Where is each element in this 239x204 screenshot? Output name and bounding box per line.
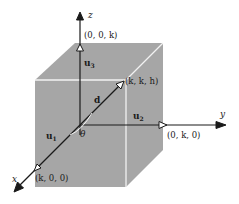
z-axis-label: z — [87, 10, 93, 20]
point-x-label: (k, 0, 0) — [35, 173, 68, 183]
y-axis-label: y — [219, 109, 226, 119]
cube-silhouette — [35, 43, 163, 187]
cube-vector-diagram: z y x (0, 0, k) (k, k, h) (0, k, 0) (k, … — [0, 0, 239, 204]
x-axis-label: x — [12, 174, 17, 184]
y-axis-arrowhead — [216, 122, 226, 129]
u1-sub: 1 — [53, 135, 57, 142]
d-label: d — [94, 95, 101, 105]
point-z-label: (0, 0, k) — [84, 30, 117, 40]
theta-label: θ — [80, 129, 86, 139]
point-diag-label: (k, k, h) — [125, 76, 158, 86]
u2-sub: 2 — [140, 115, 144, 122]
point-y-label: (0, k, 0) — [167, 130, 200, 140]
z-axis-arrowhead — [77, 12, 84, 20]
cube — [35, 43, 163, 187]
u3-sub: 3 — [91, 62, 95, 69]
